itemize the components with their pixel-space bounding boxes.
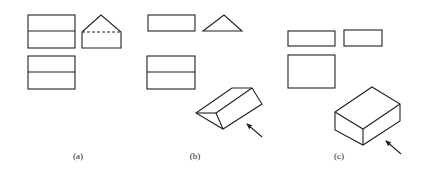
isometric-box-c <box>335 87 400 145</box>
side-view-c <box>344 30 382 46</box>
caption-a: (a) <box>73 151 83 161</box>
front-view-c <box>288 31 335 46</box>
panel-a: (a) <box>28 15 121 161</box>
top-view-b <box>147 56 195 89</box>
caption-c: (c) <box>334 151 344 161</box>
front-view-b <box>148 15 195 31</box>
front-view-a <box>28 15 75 48</box>
side-view-a <box>82 15 121 48</box>
caption-b: (b) <box>190 151 201 161</box>
panel-b: (b) <box>147 15 262 161</box>
side-view-b <box>203 15 242 31</box>
three-view-figure: (a) (b) <box>0 0 425 177</box>
view-direction-arrow-c <box>386 141 401 154</box>
top-view-c <box>288 55 335 88</box>
panel-c: (c) <box>288 30 401 161</box>
top-view-a <box>28 56 75 89</box>
view-direction-arrow-b <box>247 124 262 137</box>
isometric-prism-b <box>196 88 262 129</box>
